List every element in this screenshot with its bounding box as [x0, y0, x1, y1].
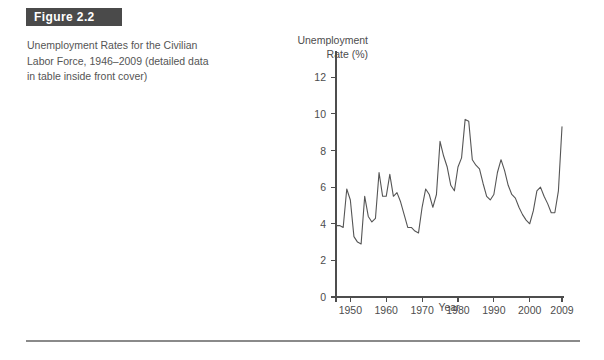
caption-line-3: in table inside front cover): [27, 69, 242, 85]
chart-svg: Unemployment Rate (%) 024681012 19501960…: [250, 28, 590, 318]
x-tick-label-1950: 1950: [339, 304, 363, 316]
y-axis-label-line-2: Rate (%): [327, 48, 368, 60]
y-tick-label-0: 0: [320, 291, 326, 303]
x-tick-label-2000: 2000: [518, 304, 542, 316]
x-tick-label-2009: 2009: [550, 304, 574, 316]
figure-header-badge: Figure 2.2: [26, 8, 122, 26]
caption-line-2: Labor Force, 1946–2009 (detailed data: [27, 54, 242, 70]
figure-page: Figure 2.2 Unemployment Rates for the Ci…: [0, 0, 604, 360]
caption-line-1: Unemployment Rates for the Civilian: [27, 38, 242, 54]
x-tick-label-1960: 1960: [375, 304, 399, 316]
y-tick-label-6: 6: [320, 181, 326, 193]
bottom-divider-rule: [26, 340, 580, 342]
y-tick-label-4: 4: [320, 218, 326, 230]
unemployment-line-chart: Unemployment Rate (%) 024681012 19501960…: [250, 28, 590, 318]
y-axis-label-line-1: Unemployment: [297, 34, 368, 46]
x-tick-label-1990: 1990: [482, 304, 506, 316]
x-axis-label: Year: [438, 301, 460, 313]
y-tick-label-2: 2: [320, 254, 326, 266]
y-tick-label-8: 8: [320, 145, 326, 157]
figure-caption: Unemployment Rates for the Civilian Labo…: [27, 38, 242, 85]
y-axis-ticks: 024681012: [314, 71, 336, 303]
series-unemployment-rate: [336, 119, 562, 243]
y-tick-label-12: 12: [314, 71, 326, 83]
y-tick-label-10: 10: [314, 108, 326, 120]
x-tick-label-1970: 1970: [410, 304, 434, 316]
figure-number-label: Figure 2.2: [34, 10, 95, 24]
